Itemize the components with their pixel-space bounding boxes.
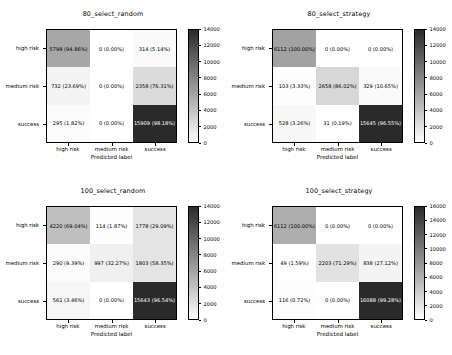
heatmap-cell: 2358 (76.31%) bbox=[133, 67, 176, 104]
colorbar-tick: 14000 bbox=[425, 217, 446, 223]
colorbar-tick-label: 2000 bbox=[429, 303, 442, 309]
colorbar-tick-label: 2000 bbox=[203, 124, 216, 130]
colorbar-tick-mark bbox=[425, 77, 427, 78]
colorbar-tick: 14000 bbox=[425, 26, 446, 32]
heatmap-cell-label: 838 (27.12%) bbox=[359, 260, 402, 266]
y-tick-labels: high risk medium risk success bbox=[0, 29, 43, 143]
heatmap-cell-label: 0 (0.00%) bbox=[316, 46, 359, 52]
heatmap-cell-label: 1803 (58.35%) bbox=[133, 260, 176, 266]
colorbar-tick: 4000 bbox=[199, 107, 217, 113]
colorbar-tick: 2000 bbox=[425, 124, 443, 130]
colorbar-tick-mark bbox=[199, 271, 201, 272]
colorbar-tick-mark bbox=[199, 222, 201, 223]
colorbar-tick: 10000 bbox=[425, 59, 446, 65]
colorbar bbox=[188, 29, 199, 143]
colorbar-tick: 6000 bbox=[425, 274, 443, 280]
y-tick-label: medium risk bbox=[0, 244, 43, 282]
colorbar-tick-mark bbox=[199, 77, 201, 78]
x-axis-title: Predicted label bbox=[46, 331, 177, 337]
heatmap-cell-label: 1778 (29.09%) bbox=[133, 223, 176, 229]
colorbar-tick-mark bbox=[199, 61, 201, 62]
x-tick-labels: high risk medium risk success bbox=[46, 323, 177, 329]
colorbar-tick-label: 14000 bbox=[203, 26, 220, 32]
colorbar-tick: 8000 bbox=[199, 252, 217, 258]
colorbar-tick: 14000 bbox=[199, 203, 220, 209]
heatmap-cell: 15909 (98.18%) bbox=[133, 105, 176, 142]
colorbar-tick-label: 0 bbox=[203, 317, 206, 323]
heatmap-cell-label: 6112 (100.00%) bbox=[273, 46, 316, 52]
x-axis-title: Predicted label bbox=[272, 154, 403, 160]
heatmap-cell-label: 0 (0.00%) bbox=[90, 83, 133, 89]
heatmap-axes: 5798 (94.86%)0 (0.00%)314 (5.14%)732 (23… bbox=[46, 29, 177, 143]
colorbar-tick-mark bbox=[425, 29, 427, 30]
heatmap-cell: 6112 (100.00%) bbox=[273, 207, 316, 244]
colorbar-tick-mark bbox=[425, 206, 427, 207]
colorbar-tick-mark bbox=[425, 305, 427, 306]
colorbar-tick-mark bbox=[425, 220, 427, 221]
heatmap-cell-label: 16088 (99.28%) bbox=[359, 297, 402, 303]
colorbar-tick-mark bbox=[199, 143, 201, 144]
colorbar-tick: 0 bbox=[425, 140, 433, 146]
colorbar-tick-label: 4000 bbox=[203, 107, 216, 113]
colorbar-tick-label: 0 bbox=[429, 140, 432, 146]
x-axis-title: Predicted label bbox=[272, 331, 403, 337]
colorbar-tick: 2000 bbox=[199, 301, 217, 307]
heatmap-axes: 4220 (69.04%)114 (1.87%)1778 (29.09%)290… bbox=[46, 206, 177, 320]
colorbar-tick-mark bbox=[199, 206, 201, 207]
confusion-matrix-panel-3: 100_select_strategy high risk medium ris… bbox=[226, 177, 452, 354]
heatmap-cell-label: 0 (0.00%) bbox=[90, 120, 133, 126]
heatmap-cell-label: 116 (0.72%) bbox=[273, 297, 316, 303]
colorbar-tick-mark bbox=[425, 126, 427, 127]
y-tick-label: high risk bbox=[226, 206, 269, 244]
colorbar-tick: 8000 bbox=[199, 75, 217, 81]
colorbar-tick-label: 6000 bbox=[429, 91, 442, 97]
colorbar-gradient bbox=[415, 207, 424, 319]
colorbar-tick: 8000 bbox=[425, 75, 443, 81]
x-tick-label: success bbox=[133, 146, 177, 152]
y-tick-label: success bbox=[0, 105, 43, 143]
heatmap-cell: 1778 (29.09%) bbox=[133, 207, 176, 244]
colorbar-tick-mark bbox=[425, 320, 427, 321]
heatmap-cells: 6112 (100.00%)0 (0.00%)0 (0.00%)49 (1.59… bbox=[273, 207, 402, 319]
x-tick-label: high risk bbox=[46, 146, 90, 152]
heatmap-axes: 6112 (100.00%)0 (0.00%)0 (0.00%)49 (1.59… bbox=[272, 206, 403, 320]
heatmap-cell: 4220 (69.04%) bbox=[47, 207, 90, 244]
heatmap-cell: 0 (0.00%) bbox=[359, 207, 402, 244]
colorbar-tick: 12000 bbox=[199, 219, 220, 225]
x-tick-labels: high risk medium risk success bbox=[272, 323, 403, 329]
colorbar-tick: 8000 bbox=[425, 260, 443, 266]
colorbar-tick-label: 6000 bbox=[429, 274, 442, 280]
colorbar-tick: 12000 bbox=[199, 42, 220, 48]
colorbar-tick: 16000 bbox=[425, 203, 446, 209]
colorbar-tick-label: 4000 bbox=[203, 284, 216, 290]
heatmap-cell: 116 (0.72%) bbox=[273, 282, 316, 319]
y-tick-label: success bbox=[226, 282, 269, 320]
colorbar-tick: 14000 bbox=[199, 26, 220, 32]
colorbar-tick-mark bbox=[425, 45, 427, 46]
colorbar-tick-label: 6000 bbox=[203, 91, 216, 97]
y-tick-label: medium risk bbox=[226, 67, 269, 105]
colorbar-tick-label: 16000 bbox=[429, 203, 446, 209]
heatmap-cell: 15645 (96.55%) bbox=[359, 105, 402, 142]
colorbar bbox=[414, 29, 425, 143]
heatmap-cell: 528 (3.26%) bbox=[273, 105, 316, 142]
heatmap-cell: 561 (3.46%) bbox=[47, 282, 90, 319]
colorbar-tick: 6000 bbox=[199, 268, 217, 274]
colorbar-tick-mark bbox=[425, 110, 427, 111]
confusion-matrix-panel-1: 80_select_strategy high risk medium risk… bbox=[226, 0, 452, 177]
heatmap-cell-label: 103 (3.33%) bbox=[273, 83, 316, 89]
heatmap-cell: 0 (0.00%) bbox=[90, 282, 133, 319]
colorbar-tick-mark bbox=[425, 263, 427, 264]
heatmap-cell: 103 (3.33%) bbox=[273, 67, 316, 104]
heatmap-cell: 2203 (71.29%) bbox=[316, 244, 359, 281]
colorbar-gradient bbox=[189, 30, 198, 142]
heatmap-cell-label: 561 (3.46%) bbox=[47, 297, 90, 303]
confusion-matrix-panel-0: 80_select_random high risk medium risk s… bbox=[0, 0, 226, 177]
colorbar-ticks: 02000400060008000100001200014000 bbox=[425, 29, 447, 143]
colorbar-tick-mark bbox=[199, 110, 201, 111]
x-axis-title: Predicted label bbox=[46, 154, 177, 160]
x-tick-label: success bbox=[133, 323, 177, 329]
colorbar-ticks: 02000400060008000100001200014000 bbox=[199, 206, 221, 320]
colorbar-gradient bbox=[189, 207, 198, 319]
heatmap-cell: 0 (0.00%) bbox=[359, 30, 402, 67]
